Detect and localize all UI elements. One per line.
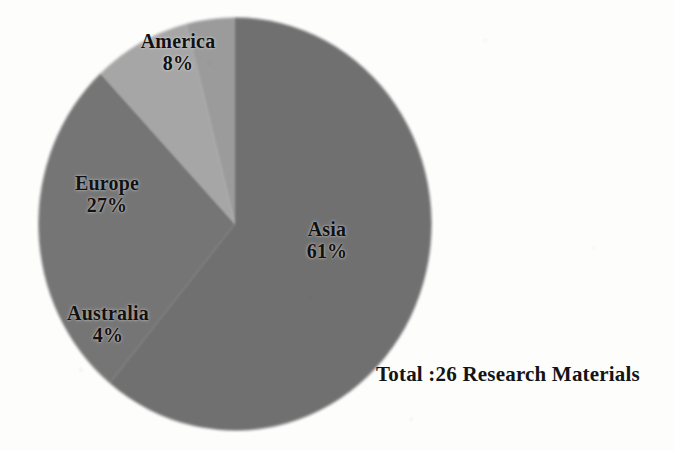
pie-label-australia: Australia 4% [40,302,176,347]
pie-label-asia-name: Asia [288,218,366,240]
pie-label-america-percent: 8% [118,52,238,74]
pie-label-america-name: America [118,30,238,52]
pie-label-australia-name: Australia [40,302,176,324]
pie-label-asia: Asia 61% [288,218,366,263]
pie-label-europe: Europe 27% [48,172,166,217]
pie-label-europe-percent: 27% [48,194,166,216]
pie-label-europe-name: Europe [48,172,166,194]
pie-chart-figure: America 8% Europe 27% Australia 4% Asia … [0,0,674,451]
pie-label-america: America 8% [118,30,238,75]
pie-label-australia-percent: 4% [40,324,176,346]
pie-label-asia-percent: 61% [288,240,366,262]
total-caption: Total :26 Research Materials [376,362,640,387]
